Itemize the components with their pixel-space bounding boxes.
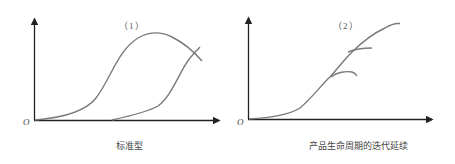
panel-2-main-curve — [249, 24, 400, 120]
panel-1-origin-label: O — [23, 117, 30, 127]
panel-2-caption: 产品生命周期的迭代延续 — [309, 139, 408, 152]
panel-1-original-cycle-curve — [35, 33, 202, 120]
panel-1-axes — [34, 19, 219, 121]
panel-2-origin-label: O — [237, 117, 244, 127]
panel-2-branch-2 — [348, 48, 372, 52]
panel-2-axes — [248, 18, 432, 120]
panel-2-curves — [249, 24, 400, 120]
panel-2-number-label: （2） — [333, 19, 359, 32]
panel-1-caption: 标准型 — [116, 139, 143, 152]
panel-1-curves — [35, 33, 202, 120]
panel-1-new-cycle-curve — [112, 47, 200, 120]
panel-1-number-label: （1） — [119, 19, 145, 32]
